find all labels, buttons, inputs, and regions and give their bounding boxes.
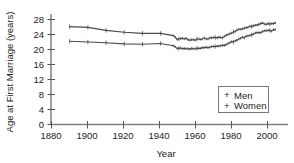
y-tick-label-0: 0 (39, 119, 44, 130)
x-tick-label-1880: 1880 (40, 130, 61, 141)
legend-label-women: Women (234, 100, 267, 111)
legend-marker-women-icon: + (224, 100, 230, 111)
y-axis-title: Age at First Marriage (years) (4, 12, 15, 133)
y-tick-label-12: 12 (33, 74, 44, 85)
legend[interactable]: + Men + Women (219, 87, 269, 113)
y-tick-label-24: 24 (33, 29, 44, 40)
x-tick-label-1940: 1940 (148, 130, 169, 141)
y-tick-label-8: 8 (39, 89, 44, 100)
x-axis-title: Year (156, 148, 175, 159)
x-tick-label-1980: 1980 (220, 130, 241, 141)
y-tick-label-28: 28 (33, 14, 44, 25)
x-tick-label-1960: 1960 (184, 130, 205, 141)
y-tick-label-4: 4 (39, 104, 44, 115)
y-tick-label-16: 16 (33, 59, 44, 70)
x-tick-label-1900: 1900 (76, 130, 97, 141)
x-tick-label-1920: 1920 (112, 130, 133, 141)
chart-container: 0 4 8 12 16 20 24 28 Age at First Marria… (0, 0, 294, 163)
x-tick-label-2000: 2000 (256, 130, 277, 141)
legend-marker-men-icon: + (224, 89, 230, 100)
age-at-first-marriage-line-chart: 0 4 8 12 16 20 24 28 Age at First Marria… (0, 0, 294, 163)
y-tick-label-20: 20 (33, 44, 44, 55)
legend-label-men: Men (234, 90, 252, 101)
